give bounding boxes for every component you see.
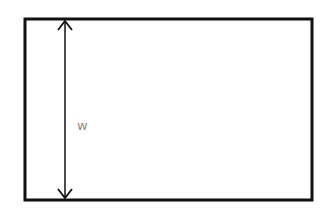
dimension-arrow: [58, 21, 72, 198]
rectangle: [25, 19, 312, 200]
dimension-label: w: [77, 118, 88, 133]
diagram: w: [0, 0, 326, 211]
